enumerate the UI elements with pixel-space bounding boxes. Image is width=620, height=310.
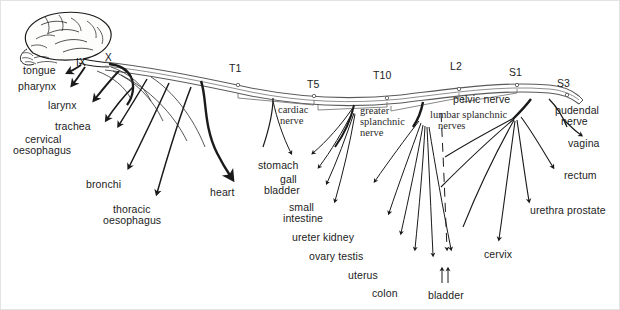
organ-label-stomach: stomach	[258, 160, 298, 172]
greater-splanchnic-label-line3: nerve	[360, 127, 383, 139]
figure-canvas: IX X T1 T5 T10 L2 S1 S3 cardiac nerve gr…	[0, 0, 620, 310]
organ-label-rectum: rectum	[564, 170, 597, 182]
organ-label-tongue: tongue	[23, 65, 56, 77]
terminal-arrow-ticks	[442, 269, 448, 283]
lumbar-splanchnic-label-line2: nerves	[438, 120, 465, 132]
organ-label-vagina: vagina	[568, 138, 600, 150]
pudendal-nerve-label-line2: nerve	[561, 116, 588, 128]
segment-label-s1: S1	[509, 67, 522, 79]
lumbar-splanchnic-label-line1: lumbar splanchnic	[430, 109, 507, 121]
organ-label-urethra-prostate: urethra prostate	[530, 205, 606, 217]
brain-illustration	[20, 12, 111, 67]
segment-label-l2: L2	[450, 61, 462, 73]
organ-label-uterus: uterus	[348, 270, 378, 282]
anatomy-illustration	[1, 1, 620, 310]
organ-label-bronchi: bronchi	[86, 179, 121, 191]
cranial-nerve-ix-label: IX	[76, 57, 86, 69]
segment-label-t10: T10	[373, 70, 391, 82]
organ-label-thoracic-oesophagus-line2: oesophagus	[103, 215, 161, 227]
organ-label-trachea: trachea	[55, 121, 91, 133]
organ-label-pharynx: pharynx	[18, 81, 56, 93]
greater-splanchnic-label-line2: splanchnic	[360, 116, 405, 128]
segment-label-s3: S3	[557, 78, 570, 90]
pelvic-nerve-label: pelvic nerve	[453, 94, 510, 106]
organ-label-larynx: larynx	[48, 100, 77, 112]
organ-label-bladder: bladder	[428, 290, 464, 302]
organ-label-cervical-oesophagus-line2: oesophagus	[13, 145, 71, 157]
organ-label-gall-bladder-line2: bladder	[264, 185, 300, 197]
cardiac-nerve-label-line2: nerve	[280, 115, 303, 127]
organ-label-small-intestine-line2: intestine	[283, 213, 323, 225]
segment-label-t1: T1	[229, 63, 241, 75]
cranial-nerve-x-label: X	[105, 52, 112, 64]
organ-label-cervix: cervix	[484, 249, 512, 261]
organ-label-colon: colon	[372, 288, 398, 300]
cranial-parasympathetic-branches	[69, 64, 231, 193]
cardiac-nerve-label-line1: cardiac	[278, 104, 308, 116]
segment-label-t5: T5	[307, 79, 319, 91]
thoracic-sympathetic-fan	[313, 105, 355, 201]
organ-label-heart: heart	[210, 187, 234, 199]
lumbar-splanchnic-branches	[441, 113, 447, 249]
greater-splanchnic-label-line1: greater	[360, 105, 389, 117]
organ-label-ovary-testis: ovary testis	[309, 251, 363, 263]
organ-label-ureter-kidney: ureter kidney	[292, 232, 354, 244]
